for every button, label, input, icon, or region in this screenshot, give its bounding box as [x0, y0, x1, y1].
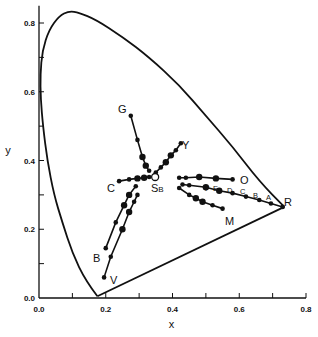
label-b: B	[93, 252, 100, 264]
y-tick-label: 0.2	[24, 225, 36, 234]
data-point	[184, 175, 189, 180]
data-point	[196, 174, 202, 180]
data-point	[108, 254, 113, 259]
data-point	[193, 195, 199, 201]
data-point	[213, 175, 219, 181]
chromaticity-chart: 0.00.20.40.60.80.00.20.40.60.8xy GYCORMB…	[0, 0, 318, 337]
label-point-d: D	[227, 186, 233, 195]
data-point	[133, 184, 138, 189]
series-c	[117, 174, 152, 183]
data-point	[210, 203, 215, 208]
series-o	[177, 174, 235, 182]
data-point	[139, 154, 145, 160]
data-point	[134, 175, 140, 181]
y-axis-label: y	[5, 144, 11, 156]
data-point	[174, 148, 179, 153]
series-v	[102, 193, 140, 280]
label-point-b: B	[253, 191, 258, 200]
data-point	[143, 162, 149, 168]
data-point	[163, 159, 169, 165]
series-g	[128, 114, 151, 174]
data-point	[135, 138, 140, 143]
data-point	[168, 152, 174, 158]
data-point	[102, 275, 107, 280]
data-point	[187, 193, 192, 198]
label-g: G	[118, 103, 127, 115]
label-point-a: A	[266, 193, 271, 202]
data-point	[177, 186, 182, 191]
data-point	[147, 169, 152, 174]
data-point	[177, 175, 182, 180]
spectrum-locus-curve	[40, 12, 284, 297]
y-tick-label: 0.0	[24, 294, 36, 303]
y-tick-label: 0.6	[24, 88, 36, 97]
label-y: Y	[182, 139, 190, 151]
label-point-c: C	[240, 187, 246, 196]
label-r: R	[284, 196, 292, 208]
label-m: M	[225, 215, 234, 227]
x-tick-label: 0.6	[234, 305, 246, 314]
series-line	[104, 195, 137, 278]
data-point	[180, 182, 185, 187]
x-tick-label: 0.4	[167, 305, 179, 314]
data-point	[113, 220, 118, 225]
label-point-f: F	[205, 184, 210, 193]
series-labels: GYCORMBVSBFEDCBA	[93, 103, 292, 286]
data-point	[117, 179, 122, 184]
x-tick-label: 0.8	[300, 305, 312, 314]
x-tick-label: 0.0	[33, 305, 45, 314]
series-y	[154, 141, 184, 175]
data-point	[147, 175, 152, 180]
data-point	[132, 199, 137, 204]
x-tick-label: 0.2	[100, 305, 112, 314]
label-c: C	[107, 182, 115, 194]
data-point	[119, 226, 125, 232]
data-point	[127, 177, 132, 182]
data-point	[141, 174, 147, 180]
data-point	[126, 209, 132, 215]
label-point-e: E	[213, 184, 218, 193]
label-white-point: SB	[151, 182, 164, 194]
x-axis-label: x	[169, 318, 175, 330]
spectrum-locus	[40, 12, 284, 297]
data-point	[103, 246, 108, 251]
y-tick-label: 0.4	[24, 157, 36, 166]
data-point	[159, 165, 164, 170]
label-v: V	[110, 274, 118, 286]
data-point	[135, 193, 140, 198]
data-point	[230, 177, 235, 182]
white-point-marker	[152, 174, 159, 181]
label-o: O	[240, 174, 249, 186]
y-tick-label: 0.8	[24, 19, 36, 28]
data-point	[126, 192, 132, 198]
data-point	[121, 202, 127, 208]
data-point	[128, 114, 133, 119]
data-point	[187, 183, 192, 188]
data-point	[220, 206, 225, 211]
data-point	[199, 199, 205, 205]
